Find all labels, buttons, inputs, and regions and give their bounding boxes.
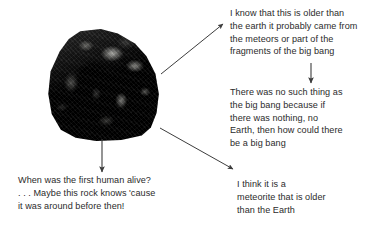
arrow-rock-to-note-meteorite [160, 128, 233, 169]
note-meteorite: I think it is a meteorite that is older … [237, 178, 383, 216]
note-older-than-earth: I know that this is older than the earth… [230, 7, 386, 58]
note-first-human: When was the first human alive? . . . Ma… [18, 174, 218, 212]
rock-photo [46, 29, 160, 141]
rock-texture-overlay [46, 29, 160, 141]
concept-map-canvas: I know that this is older than the earth… [0, 0, 388, 225]
note-no-big-bang: There was no such thing as the big bang … [230, 86, 386, 150]
arrow-rock-to-note-older-than-earth [161, 24, 223, 74]
